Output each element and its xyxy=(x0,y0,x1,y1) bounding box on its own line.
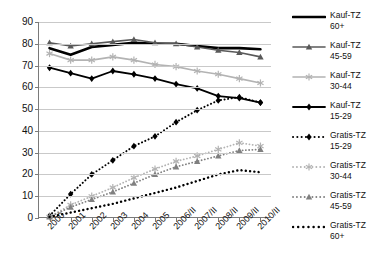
legend-label: Kauf-TZ 60+ xyxy=(330,10,361,31)
gridline xyxy=(39,174,271,175)
legend-label: Gratis-TZ 45-59 xyxy=(330,190,366,211)
legend-item[interactable]: Gratis-TZ 60+ xyxy=(292,220,386,242)
y-axis-label: 20 xyxy=(5,169,33,179)
chart-container: 0102030405060708090200020012002200320042… xyxy=(0,0,386,263)
legend-swatch-icon xyxy=(292,11,326,23)
y-axis-label: 80 xyxy=(5,39,33,49)
legend-label: Gratis-TZ 15-29 xyxy=(330,130,366,151)
gridline xyxy=(39,196,271,197)
legend-label: Kauf-TZ 15-29 xyxy=(330,100,361,121)
y-axis-tick xyxy=(35,153,39,154)
gridline xyxy=(39,44,271,45)
series-layer xyxy=(39,22,271,218)
legend-swatch-icon xyxy=(292,221,326,233)
gridline xyxy=(39,66,271,67)
legend-label: Kauf-TZ 45-59 xyxy=(330,40,361,61)
y-axis-label: 90 xyxy=(5,17,33,27)
gridline xyxy=(39,87,271,88)
legend-item[interactable]: Gratis-TZ 45-59 xyxy=(292,190,386,212)
y-axis-tick xyxy=(35,109,39,110)
legend-swatch-icon xyxy=(292,161,326,173)
y-axis-label: 10 xyxy=(5,191,33,201)
y-axis-tick xyxy=(35,22,39,23)
y-axis-label: 50 xyxy=(5,104,33,114)
legend-item[interactable]: Kauf-TZ 30-44 xyxy=(292,70,386,92)
gridline xyxy=(39,153,271,154)
gridline xyxy=(39,22,271,23)
legend-item[interactable]: Kauf-TZ 60+ xyxy=(292,10,386,32)
y-axis-label: 70 xyxy=(5,61,33,71)
y-axis-tick xyxy=(35,44,39,45)
y-axis-tick xyxy=(35,196,39,197)
legend-item[interactable]: Gratis-TZ 15-29 xyxy=(292,130,386,152)
y-axis-tick xyxy=(35,66,39,67)
legend-item[interactable]: Kauf-TZ 15-29 xyxy=(292,100,386,122)
legend-swatch-icon xyxy=(292,191,326,203)
y-axis-tick xyxy=(35,218,39,219)
y-axis-tick xyxy=(35,131,39,132)
gridline xyxy=(39,131,271,132)
legend-item[interactable]: Kauf-TZ 45-59 xyxy=(292,40,386,62)
legend-swatch-icon xyxy=(292,131,326,143)
plot-area: 0102030405060708090200020012002200320042… xyxy=(38,22,270,218)
y-axis-tick xyxy=(35,174,39,175)
legend-swatch-icon xyxy=(292,71,326,83)
y-axis-tick xyxy=(35,87,39,88)
legend-swatch-icon xyxy=(292,41,326,53)
legend-label: Kauf-TZ 30-44 xyxy=(330,70,361,91)
y-axis-label: 40 xyxy=(5,126,33,136)
gridline xyxy=(39,109,271,110)
y-axis-label: 60 xyxy=(5,82,33,92)
legend-label: Gratis-TZ 60+ xyxy=(330,220,366,241)
chart-legend: Kauf-TZ 60+Kauf-TZ 45-59Kauf-TZ 30-44Kau… xyxy=(292,10,386,250)
series-gratis-tz-15-29 xyxy=(47,94,263,219)
series-kauf-tz-15-29 xyxy=(47,64,263,106)
y-axis-label: 30 xyxy=(5,148,33,158)
legend-item[interactable]: Gratis-TZ 30-44 xyxy=(292,160,386,182)
y-axis-label: 0 xyxy=(5,213,33,223)
legend-label: Gratis-TZ 30-44 xyxy=(330,160,366,181)
legend-swatch-icon xyxy=(292,101,326,113)
